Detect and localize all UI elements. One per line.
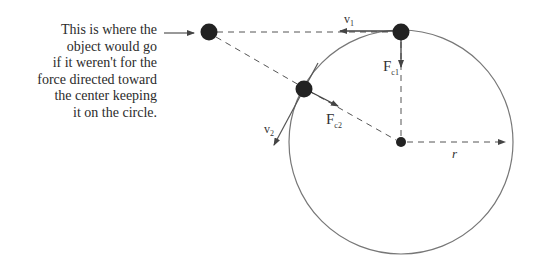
label-v1: v1 xyxy=(344,12,354,28)
circular-motion-diagram: v1 Fc1 v2 Fc2 r xyxy=(0,0,537,268)
label-v2: v2 xyxy=(264,122,274,138)
label-radius: r xyxy=(452,146,458,161)
ball-position-2 xyxy=(296,81,313,98)
ball-position-1 xyxy=(393,24,410,41)
projected-position-ball xyxy=(201,24,218,41)
velocity-v2-arrow xyxy=(274,63,318,145)
label-fc1: Fc1 xyxy=(383,58,399,77)
label-fc2: Fc2 xyxy=(326,111,342,130)
circle-center-dot xyxy=(396,137,406,147)
